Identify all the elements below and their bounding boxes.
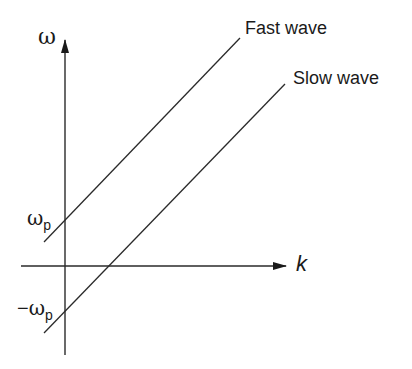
omega-p-tick-label: ωp: [27, 208, 51, 228]
slow-wave-line: [44, 84, 285, 333]
fast-wave-label: Fast wave: [245, 19, 327, 37]
omega-symbol: ω: [27, 206, 43, 230]
neg-omega-p-tick-label: −ωp: [17, 298, 53, 318]
omega-axis-label: ω: [38, 26, 56, 48]
dispersion-diagram: [0, 0, 412, 369]
fast-wave-line: [44, 38, 240, 242]
subscript-p: p: [45, 307, 53, 323]
minus-sign: −: [17, 297, 29, 319]
omega-symbol: ω: [29, 296, 45, 320]
k-axis-label: k: [296, 253, 307, 275]
slow-wave-label: Slow wave: [293, 69, 379, 87]
subscript-p: p: [43, 217, 51, 233]
